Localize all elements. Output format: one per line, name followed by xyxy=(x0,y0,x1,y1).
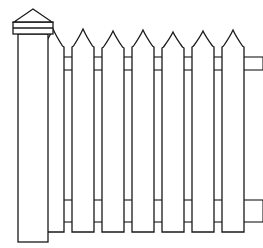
picket-5-board xyxy=(162,32,184,232)
picket-2 xyxy=(72,29,94,232)
picket-2-board xyxy=(72,29,94,232)
picket-7-board xyxy=(222,30,244,232)
picket-7 xyxy=(222,30,244,232)
picket-5 xyxy=(162,32,184,232)
picket-4-board xyxy=(132,30,154,232)
post-shaft xyxy=(18,34,48,242)
picket-6 xyxy=(192,31,214,232)
fence-post-group xyxy=(13,9,53,242)
picket-fence-drawing xyxy=(0,0,263,248)
fence-illustration-canvas xyxy=(0,0,263,248)
fence-pickets-group xyxy=(42,29,244,232)
picket-4 xyxy=(132,30,154,232)
picket-3-board xyxy=(102,31,124,232)
picket-3 xyxy=(102,31,124,232)
picket-6-board xyxy=(192,31,214,232)
